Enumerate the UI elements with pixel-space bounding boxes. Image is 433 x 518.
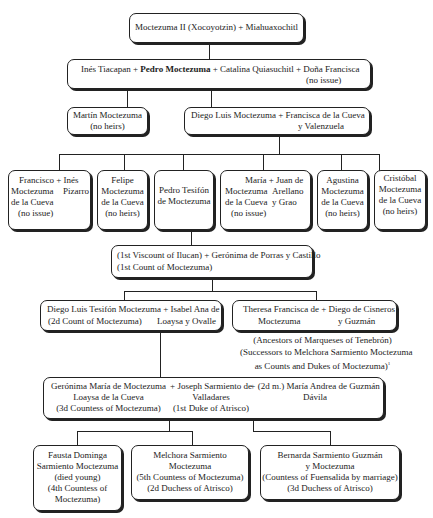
node-label: Bernarda Sarmiento Guzmán [261, 450, 399, 462]
node-fausta: Fausta Dominga Sarmiento Moctezuma (died… [33, 445, 122, 511]
node-label: Felipe [98, 175, 147, 187]
node-label: Arellano [272, 186, 304, 198]
node-label: Moctezuma [98, 186, 147, 198]
connector [169, 418, 170, 432]
node-label: Theresa Francisca de + Diego de Cisneros [243, 304, 395, 316]
connector [59, 154, 60, 171]
node-label: Moctezuma [11, 186, 53, 198]
node-label: Dávila [249, 392, 381, 404]
node-viscount: (1st Viscount of Ilucan) + Gerónima de P… [111, 245, 313, 278]
node-label: Moctezuma II (Xocoyotzin) + Miahuaxochit… [130, 22, 303, 34]
node-label: y Moctezuma [261, 461, 399, 473]
node-label: Moctezuma [132, 461, 248, 473]
theresa-note: (Ancestors of Marqueses of Tenebrón) (Su… [240, 335, 405, 373]
note-line: as Counts and Dukes of Moctezuma)1 [240, 358, 405, 373]
node-label: Moctezuma [225, 186, 267, 198]
node-note: (4th Countess of [34, 483, 121, 495]
connector [379, 154, 380, 171]
connector [341, 154, 342, 171]
footnote-marker: 1 [388, 361, 391, 366]
connector [124, 154, 125, 171]
note-text: as Counts and Dukes of Moctezuma) [255, 361, 388, 371]
node-theresa: Theresa Francisca de + Diego de Cisneros… [232, 300, 397, 331]
node-note: (no heirs) [98, 208, 147, 220]
connector [160, 330, 161, 378]
node-note: (5th Countess of Moctezuma) [132, 472, 248, 484]
node-label: Loaysa y Ovalle [157, 316, 216, 328]
node-note: (no issue) [306, 75, 341, 87]
node-label: Moctezuma [318, 186, 367, 198]
connector [209, 42, 210, 60]
node-label: Inés Tiacapan + Pedro Moctezuma + Catali… [81, 64, 360, 76]
node-label: y Guzmán [338, 316, 375, 328]
node-label: Pizarro [63, 186, 89, 198]
node-felipe: Felipe Moctezuma de la Cueva (no heirs) [97, 170, 148, 230]
node-cristobal: Cristóbal Moctezuma de la Cueva (no heir… [374, 170, 426, 230]
node-note: Moctezuma) [34, 494, 121, 506]
node-label: Francisco + Inés [19, 175, 79, 187]
connector [127, 88, 128, 108]
node-label: Diego Luis Tesifón Moctezuma + Isabel An… [47, 304, 220, 316]
node-note: (no heirs) [375, 206, 425, 218]
node-agustina: Agustina Moctezuma de la Cueva (no heirs… [317, 170, 368, 230]
node-label: Agustina [318, 175, 367, 187]
node-label: Martín Moctezuma [68, 110, 147, 122]
node-label: de la Cueva [375, 195, 425, 207]
node-label: Loaysa de la Cueva [46, 392, 171, 404]
node-label: Fausta Dominga [34, 450, 121, 462]
node-note: (no issue) [231, 208, 266, 220]
spouse-ines: Inés Tiacapan + [81, 64, 140, 74]
connector [212, 277, 213, 292]
node-martin: Martín Moctezuma (no heirs) [67, 107, 148, 135]
node-label: Melchora Sarmiento [132, 450, 248, 462]
node-note: (3d Countess of Moctezuma) [46, 403, 171, 415]
node-diego-luis: Diego Luis Moctezuma + Francisca de la C… [184, 107, 370, 135]
connector [59, 154, 380, 155]
name-pedro: Pedro Moctezuma [140, 64, 210, 74]
connector [77, 431, 193, 432]
node-label: Valladares [167, 392, 255, 404]
connector [183, 154, 184, 171]
node-label: Cristóbal [375, 173, 425, 185]
node-note: (no issue) [18, 208, 53, 220]
spouses: + Catalina Quiasuchitl + Doña Francisca [210, 64, 359, 74]
node-label: (1st Viscount of Ilucan) + Gerónima de P… [117, 250, 321, 262]
node-note: (2d Count of Moctezuma) [48, 316, 142, 328]
node-label: y Grao [272, 197, 297, 209]
connector [253, 431, 331, 432]
node-bernarda: Bernarda Sarmiento Guzmán y Moctezuma (C… [260, 445, 400, 500]
node-geronima: Gerónima María de Moctezuma Loaysa de la… [43, 377, 384, 419]
node-note: (3d Duchess of Atrisco) [261, 483, 399, 495]
node-label: de la Cueva [98, 197, 147, 209]
node-note: (Countess of Fuensalida by marriage) [261, 472, 399, 484]
node-pedro-moctezuma: Inés Tiacapan + Pedro Moctezuma + Catali… [67, 59, 371, 89]
node-note: (1st Count of Moctezuma) [117, 262, 212, 274]
node-label: Pedro Tesifón [155, 185, 213, 197]
node-label: de la Cueva [318, 197, 367, 209]
node-label: María + Juan de [245, 175, 303, 187]
node-label: de la Cueva [225, 197, 267, 209]
node-pedro-tesifon: Pedro Tesifón de Moctezuma [154, 170, 214, 230]
node-label: Sarmiento Moctezuma [34, 461, 121, 473]
connector [124, 291, 317, 292]
connector [77, 431, 78, 446]
connector [263, 154, 264, 171]
note-line: (Ancestors of Marqueses of Tenebrón) [240, 335, 405, 347]
node-label: Gerónima María de Moctezuma [46, 381, 171, 393]
node-label: + (2d m.) María Andrea de Guzmán [249, 381, 381, 393]
node-maria: María + Juan de Moctezuma Arellano de la… [220, 170, 311, 230]
node-note: (no heirs) [318, 208, 367, 220]
node-label: y Valenzuela [298, 121, 344, 133]
node-melchora: Melchora Sarmiento Moctezuma (5th Counte… [131, 445, 249, 500]
node-label: + Joseph Sarmiento de [167, 381, 255, 393]
node-note: (died young) [34, 472, 121, 484]
node-label: de Moctezuma [155, 196, 213, 208]
node-note: (1st Duke of Atrisco) [167, 403, 255, 415]
node-moctezuma-ii: Moctezuma II (Xocoyotzin) + Miahuaxochit… [129, 13, 304, 43]
connector [330, 431, 331, 446]
node-note: (no heirs) [68, 121, 147, 133]
connector [191, 228, 192, 246]
node-note: (2d Duchess of Atrisco) [132, 483, 248, 495]
node-label: Moctezuma [258, 316, 300, 328]
node-label: Diego Luis Moctezuma + Francisca de la C… [191, 110, 365, 122]
